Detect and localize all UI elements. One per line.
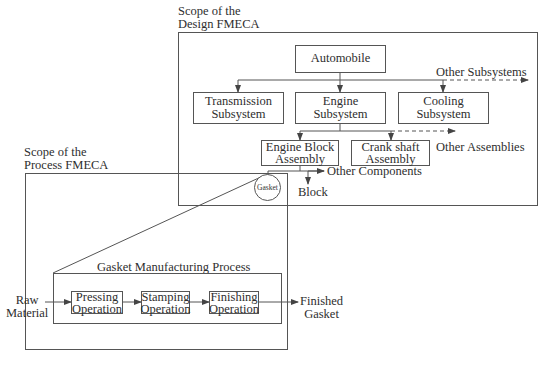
other-assemblies-label: Other Assemblies [436,141,525,154]
stamping-line2: Operation [141,303,191,315]
engine-block-assembly-box: Engine Block Assembly [261,140,339,166]
automobile-label: Automobile [311,52,371,66]
finished-gasket-label: Finished Gasket [300,295,343,321]
transmission-line2: Subsystem [211,108,265,122]
cooling-subsystem-box: Cooling Subsystem [398,92,489,124]
engine-subsystem-box: Engine Subsystem [295,92,386,124]
pressing-line2: Operation [72,303,122,315]
cooling-line1: Cooling [423,95,463,109]
crankshaft-assembly-box: Crank shaft Assembly [351,140,430,166]
gasket-circle: Gasket [254,174,281,201]
engine-block-line2: Assembly [275,153,325,166]
transmission-line1: Transmission [205,95,272,109]
finishing-line2: Operation [209,303,259,315]
cooling-line2: Subsystem [416,108,470,122]
raw-material-label: Raw Material [6,294,48,320]
engine-line1: Engine [323,95,358,109]
transmission-subsystem-box: Transmission Subsystem [193,92,284,124]
other-subsystems-label: Other Subsystems [436,66,527,79]
pressing-line1: Pressing [76,291,118,303]
gasket-label: Gasket [257,183,278,192]
automobile-box: Automobile [295,45,386,73]
raw-material-line2: Material [6,307,48,320]
engine-line2: Subsystem [313,108,367,122]
block-label: Block [298,186,328,199]
stamping-line1: Stamping [142,291,190,303]
finishing-operation-box: Finishing Operation [209,291,259,314]
other-components-label: Other Components [327,165,422,178]
finishing-line1: Finishing [210,291,257,303]
stamping-operation-box: Stamping Operation [141,291,190,314]
finished-gasket-line2: Gasket [300,308,343,321]
pressing-operation-box: Pressing Operation [71,291,123,314]
